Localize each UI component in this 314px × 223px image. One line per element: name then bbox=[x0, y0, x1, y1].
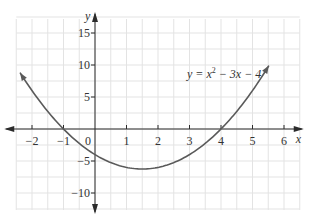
y-axis-label: y bbox=[84, 9, 91, 23]
x-tick-label: 6 bbox=[281, 134, 287, 148]
axes: xy bbox=[4, 9, 304, 214]
y-tick-label: 10 bbox=[78, 58, 90, 72]
curve-arrow-left bbox=[20, 73, 27, 81]
x-tick-label: −2 bbox=[26, 134, 39, 148]
origin-label: 0 bbox=[85, 134, 91, 148]
x-axis-label: x bbox=[295, 132, 302, 146]
y-tick-label: 5 bbox=[84, 90, 90, 104]
equation-lhs: y = x bbox=[186, 67, 212, 81]
x-axis-arrow-left bbox=[4, 126, 14, 132]
parabola-chart: xy −2−112345615105−5−100 y = x2 − 3x − 4 bbox=[0, 0, 314, 223]
x-tick-label: 2 bbox=[155, 134, 161, 148]
x-tick-label: 3 bbox=[187, 134, 193, 148]
x-tick-label: 1 bbox=[124, 134, 130, 148]
y-tick-label: −5 bbox=[77, 154, 90, 168]
y-tick-label: −10 bbox=[71, 186, 90, 200]
equation-rhs: − 3x − 4 bbox=[216, 67, 262, 81]
x-tick-label: −1 bbox=[57, 134, 70, 148]
x-tick-label: 4 bbox=[218, 134, 224, 148]
y-tick-label: 15 bbox=[78, 26, 90, 40]
equation-label: y = x2 − 3x − 4 bbox=[186, 66, 261, 81]
x-tick-label: 5 bbox=[250, 134, 256, 148]
grid bbox=[16, 17, 300, 210]
